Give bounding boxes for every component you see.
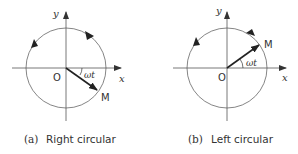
- angle-arc: [240, 59, 243, 68]
- point-label: M: [264, 39, 273, 50]
- caption-text: Right circular: [46, 133, 117, 145]
- rotation-arrow-icon: [193, 37, 200, 46]
- caption-tag: (a): [24, 133, 38, 145]
- caption-text: Left circular: [211, 133, 274, 145]
- origin-label: O: [218, 72, 226, 83]
- origin-label: O: [53, 72, 61, 83]
- polarization-diagram: y x O M ωt (a) Right circular y x O M ωt…: [0, 0, 298, 154]
- panel-left-circular: y x O M ωt (b) Left circular: [173, 5, 288, 145]
- point-label: M: [101, 92, 110, 103]
- y-axis-label: y: [215, 5, 222, 16]
- angle-label: ωt: [246, 58, 257, 68]
- angle-arc: [80, 68, 82, 75]
- x-axis-label: x: [282, 72, 288, 83]
- caption-tag: (b): [188, 133, 203, 145]
- x-axis-label: x: [119, 73, 125, 84]
- panel-right-circular: y x O M ωt (a) Right circular: [12, 8, 125, 145]
- angle-label: ωt: [84, 70, 95, 80]
- rotation-arrow-icon: [246, 29, 255, 36]
- y-axis-label: y: [52, 8, 59, 19]
